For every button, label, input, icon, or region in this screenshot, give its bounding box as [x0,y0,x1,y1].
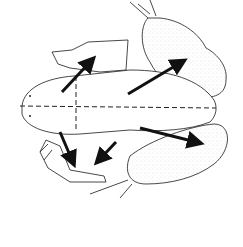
arrow-front-right-2-icon [100,142,116,159]
frog-outline [22,0,228,198]
frog-figure [0,0,243,247]
